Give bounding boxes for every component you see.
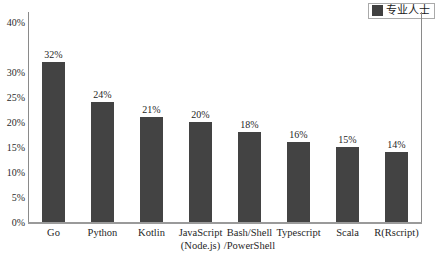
x-label-line-1: Typescript — [276, 227, 320, 238]
bar-value-label: 20% — [191, 109, 209, 120]
bar — [287, 142, 310, 222]
chart-legend: 专业人士 — [368, 3, 435, 19]
bar-slot: 21% — [140, 22, 163, 222]
bar-slot: 18% — [238, 22, 261, 222]
legend-label: 专业人士 — [386, 5, 430, 16]
bar-value-label: 16% — [289, 129, 307, 140]
y-axis-tick-labels: 40%30%25%20%15%10%5%0% — [0, 0, 27, 262]
y-axis-tick-label: 20% — [7, 117, 25, 128]
bar-slot: 24% — [91, 22, 114, 222]
plot-area: 32%24%21%20%18%16%15%14% — [29, 22, 421, 222]
x-label-line-1: Go — [47, 227, 60, 238]
x-axis-category-labels: GoPythonKotlinJavaScript(Node.js)Bash/Sh… — [29, 226, 421, 262]
right-frame-line — [421, 12, 422, 223]
bar-slot: 14% — [385, 22, 408, 222]
y-axis-tick-label: 30% — [7, 67, 25, 78]
x-label-line-1: Kotlin — [138, 227, 165, 238]
x-axis-category-label: R(Rscript) — [365, 226, 428, 239]
y-axis-tick-label: 25% — [7, 92, 25, 103]
bar — [91, 102, 114, 222]
bar-slot: 32% — [42, 22, 65, 222]
x-axis-line — [28, 222, 422, 224]
bar-value-label: 14% — [387, 139, 405, 150]
x-label-line-1: Scala — [336, 227, 359, 238]
x-label-line-1: Python — [88, 227, 118, 238]
bar-value-label: 24% — [93, 89, 111, 100]
bar-slot: 16% — [287, 22, 310, 222]
bar-value-label: 15% — [338, 134, 356, 145]
x-label-line-1: JavaScript — [179, 227, 223, 238]
x-label-line-1: Bash/Shell — [227, 227, 273, 238]
y-axis-tick-label: 40% — [7, 17, 25, 28]
bar-value-label: 32% — [44, 49, 62, 60]
legend-swatch-icon — [372, 5, 383, 16]
y-axis-tick-label: 5% — [12, 192, 25, 203]
bar-value-label: 21% — [142, 104, 160, 115]
y-axis-tick-label: 15% — [7, 142, 25, 153]
bar — [189, 122, 212, 222]
bar — [336, 147, 359, 222]
bar — [42, 62, 65, 222]
bar — [238, 132, 261, 222]
bar — [140, 117, 163, 222]
bar-slot: 20% — [189, 22, 212, 222]
bar — [385, 152, 408, 222]
bar-chart: 专业人士 40%30%25%20%15%10%5%0% 32%24%21%20%… — [0, 0, 439, 262]
bar-value-label: 18% — [240, 119, 258, 130]
x-label-line-2: /PowerShell — [218, 239, 281, 252]
y-axis-line — [28, 12, 29, 223]
x-label-line-1: R(Rscript) — [374, 227, 418, 238]
bar-slot: 15% — [336, 22, 359, 222]
y-axis-tick-label: 10% — [7, 167, 25, 178]
